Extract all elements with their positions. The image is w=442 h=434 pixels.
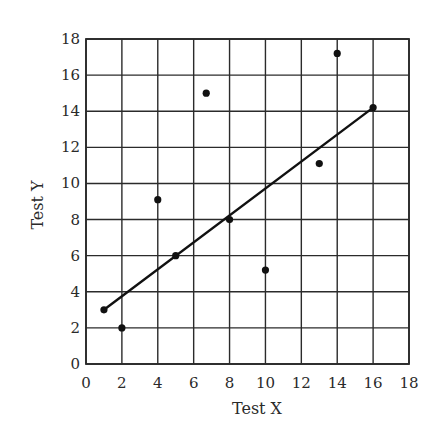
y-axis-label: Test Y xyxy=(28,180,47,230)
y-tick-label: 4 xyxy=(70,283,80,301)
x-tick-label: 14 xyxy=(328,374,347,392)
regression-line xyxy=(104,108,373,310)
y-tick-label: 10 xyxy=(61,174,80,192)
data-point xyxy=(370,104,377,111)
y-tick-label: 12 xyxy=(61,138,80,156)
data-point xyxy=(172,252,179,259)
data-point xyxy=(262,267,269,274)
x-tick-label: 4 xyxy=(153,374,163,392)
regression-line-path xyxy=(104,108,373,310)
x-tick-label: 8 xyxy=(225,374,235,392)
x-tick-label: 18 xyxy=(399,374,418,392)
x-tick-label: 16 xyxy=(364,374,383,392)
x-tick-label: 2 xyxy=(117,374,127,392)
y-tick-label: 16 xyxy=(61,66,80,84)
data-point xyxy=(100,306,107,313)
y-tick-label: 0 xyxy=(70,355,80,373)
x-tick-label: 10 xyxy=(256,374,275,392)
scatter-chart: 024681012141618 024681012141618 Test X T… xyxy=(0,0,442,434)
y-tick-label: 18 xyxy=(61,30,80,48)
data-point xyxy=(226,216,233,223)
data-point xyxy=(203,90,210,97)
data-point xyxy=(316,160,323,167)
y-tick-label: 8 xyxy=(70,211,80,229)
y-tick-label: 14 xyxy=(61,102,80,120)
data-points xyxy=(100,50,376,332)
x-tick-label: 6 xyxy=(189,374,199,392)
data-point xyxy=(118,324,125,331)
x-axis-ticks: 024681012141618 xyxy=(81,374,418,392)
y-axis-ticks: 024681012141618 xyxy=(61,30,80,373)
x-tick-label: 0 xyxy=(81,374,91,392)
x-axis-label: Test X xyxy=(232,399,283,418)
data-point xyxy=(154,196,161,203)
y-tick-label: 2 xyxy=(70,319,80,337)
data-point xyxy=(334,50,341,57)
x-tick-label: 12 xyxy=(292,374,311,392)
y-tick-label: 6 xyxy=(70,247,80,265)
